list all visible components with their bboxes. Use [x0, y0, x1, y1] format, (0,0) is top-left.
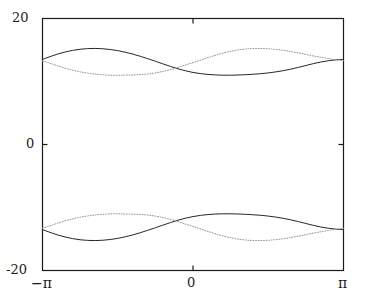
series-lower-solid: [43, 214, 344, 241]
figure-canvas: 20 0 -20 −π 0 π: [0, 0, 365, 302]
series-upper-dotted: [43, 48, 344, 75]
plot-area: [0, 0, 365, 302]
y-tick-label-bottom: -20: [6, 263, 27, 276]
series-lower-dotted: [43, 214, 344, 241]
axes-frame: [43, 19, 344, 271]
axis-ticks: [43, 19, 344, 271]
series-upper-solid: [43, 48, 344, 75]
x-tick-label-minus-pi: −π: [31, 276, 52, 290]
data-series-group: [43, 48, 344, 240]
y-tick-label-top: 20: [12, 11, 29, 24]
y-tick-label-middle: 0: [26, 137, 34, 150]
x-tick-label-zero: 0: [187, 276, 195, 289]
x-tick-label-pi: π: [338, 276, 347, 290]
